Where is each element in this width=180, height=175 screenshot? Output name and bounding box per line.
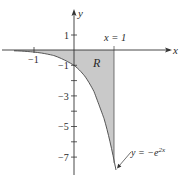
x-tick-label-neg1: −1 bbox=[28, 54, 39, 65]
y-tick-label-neg7: −7 bbox=[58, 152, 69, 163]
region-label: R bbox=[92, 56, 101, 70]
curve-label-main: y = −e bbox=[130, 147, 159, 158]
vertical-line-label: x = 1 bbox=[103, 32, 126, 43]
curve-label-arrow bbox=[119, 152, 131, 166]
y-axis-label: y bbox=[77, 7, 83, 19]
chart-canvas: y x 1 −1 −1 −3 −5 −7 x = 1 R y = −e2x bbox=[0, 0, 180, 175]
x-axis-label: x bbox=[172, 44, 178, 56]
y-tick-label-1: 1 bbox=[64, 30, 69, 41]
curve-label-exponent: 2x bbox=[158, 146, 166, 154]
y-tick-label-neg3: −3 bbox=[58, 91, 69, 102]
y-tick-label-neg1: −1 bbox=[58, 60, 69, 71]
y-tick-label-neg5: −5 bbox=[58, 121, 69, 132]
curve-label: y = −e2x bbox=[130, 146, 166, 158]
